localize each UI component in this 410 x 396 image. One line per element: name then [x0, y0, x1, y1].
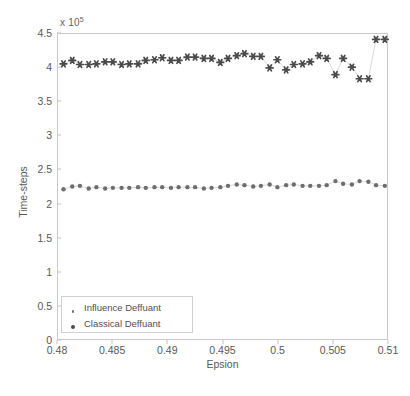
y-axis-tick-mark [57, 101, 61, 102]
y-axis-tick-mark [57, 340, 61, 341]
data-point-marker [381, 36, 388, 42]
data-point-marker [250, 53, 257, 59]
legend-marker-star-icon [62, 315, 84, 333]
data-series-influence-deffuant [61, 179, 387, 192]
data-point-marker [324, 183, 328, 187]
legend-label-classical-deffuant: Classical Deffuant [84, 318, 160, 329]
y-axis-tick-mark [57, 203, 61, 204]
y-axis-tick-mark [57, 271, 61, 272]
data-point-marker [208, 55, 215, 61]
data-point-marker [209, 186, 213, 190]
data-point-marker [357, 179, 361, 183]
data-point-marker [332, 72, 339, 78]
data-point-marker [350, 182, 354, 186]
data-point-marker [193, 185, 197, 189]
x-axis-tick-label: 0.485 [99, 344, 125, 356]
data-point-marker [202, 186, 206, 190]
data-point-marker [200, 55, 207, 61]
data-point-marker [275, 185, 279, 189]
data-point-marker [373, 36, 380, 42]
data-point-marker [94, 185, 98, 189]
data-point-marker [175, 58, 182, 64]
data-point-marker [356, 76, 363, 82]
data-point-marker [218, 185, 222, 189]
data-point-marker [103, 186, 107, 190]
x-axis-tick-mark [167, 340, 168, 344]
data-series-classical-deffuant [60, 36, 388, 81]
data-point-marker [78, 184, 82, 188]
data-point-marker [111, 186, 115, 190]
x-axis-tick-mark [112, 340, 113, 344]
legend-item-influence-deffuant: Influence Deffuant [62, 299, 192, 316]
data-point-marker [168, 58, 175, 64]
legend-item-classical-deffuant: Classical Deffuant [62, 315, 192, 332]
data-point-marker [135, 61, 142, 67]
data-point-marker [300, 184, 304, 188]
data-point-marker [142, 58, 149, 64]
data-point-marker [61, 187, 65, 191]
data-point-marker [192, 54, 199, 60]
y-axis-tick-mark [57, 67, 61, 68]
data-point-marker [323, 55, 330, 61]
data-point-marker [383, 184, 387, 188]
data-point-marker [333, 179, 337, 183]
y-axis-tick-mark [57, 33, 61, 34]
data-point-marker [69, 58, 76, 64]
x-axis-tick-mark [332, 340, 333, 344]
y-axis-tick-mark [57, 169, 61, 170]
data-point-marker [93, 61, 100, 67]
data-point-marker [102, 59, 109, 65]
data-point-marker [85, 62, 92, 68]
legend-label-influence-deffuant: Influence Deffuant [84, 302, 161, 313]
data-point-marker [152, 185, 156, 189]
data-point-marker [299, 61, 306, 67]
data-point-marker [226, 184, 230, 188]
data-point-marker [366, 180, 370, 184]
x-axis-tick-label: 0.48 [47, 344, 67, 356]
data-point-marker [160, 185, 164, 189]
data-point-marker [185, 185, 189, 189]
data-point-marker [251, 184, 255, 188]
data-point-marker [365, 76, 372, 82]
data-point-marker [60, 61, 67, 67]
x-axis-tick-mark [388, 340, 389, 344]
data-point-marker [259, 184, 263, 188]
data-point-marker [308, 184, 312, 188]
data-point-marker [87, 186, 91, 190]
data-point-marker [127, 186, 131, 190]
x-axis-tick-mark [277, 340, 278, 344]
x-axis-tick-label: 0.505 [320, 344, 346, 356]
x-axis-tick-mark [57, 340, 58, 344]
plot-area [57, 33, 388, 340]
data-point-marker [217, 60, 224, 66]
y-axis-label: Time-steps [17, 147, 29, 237]
y-axis-tick-mark [57, 237, 61, 238]
data-point-marker [119, 186, 123, 190]
data-series-svg [58, 34, 387, 339]
data-point-marker [169, 186, 173, 190]
data-point-marker [118, 62, 125, 68]
x-axis-label: Epsion [57, 358, 388, 370]
data-point-marker [184, 54, 191, 60]
data-point-marker [284, 183, 288, 187]
x-axis-tick-label: 0.5 [270, 344, 285, 356]
y-axis-tick-mark [57, 305, 61, 306]
data-point-marker [70, 184, 74, 188]
data-point-marker [159, 55, 166, 61]
legend-box: Influence Deffuant Classical Deffuant [61, 296, 193, 333]
data-point-marker [136, 185, 140, 189]
data-point-marker [225, 55, 232, 61]
data-point-marker [233, 53, 240, 59]
data-point-marker [242, 183, 246, 187]
data-point-marker [176, 185, 180, 189]
x-axis-tick-mark [222, 340, 223, 344]
data-point-marker [144, 186, 148, 190]
x-axis-tick-label: 0.51 [378, 344, 398, 356]
data-point-marker [317, 184, 321, 188]
y-axis-tick-mark [57, 135, 61, 136]
data-point-marker [77, 62, 84, 68]
data-point-marker [109, 59, 116, 65]
data-point-marker [341, 182, 345, 186]
data-point-marker [374, 183, 378, 187]
data-point-marker [235, 182, 239, 186]
